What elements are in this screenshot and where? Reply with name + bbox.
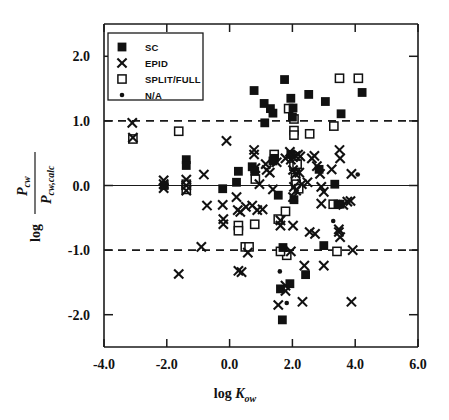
data-point-cross-x [319, 261, 328, 270]
y-tick-label: -1.0 [68, 243, 90, 258]
data-point-filled-square [286, 94, 295, 103]
data-point-cross-x [268, 185, 277, 194]
data-point-cross-x [288, 221, 297, 230]
data-point-cross-x [274, 300, 283, 309]
data-point-cross-x [202, 201, 211, 210]
data-point-filled-square [301, 270, 310, 279]
data-point-open-square [118, 75, 126, 83]
svg-text:log Kow: log Kow [214, 386, 257, 404]
data-point-cross-x [232, 193, 241, 202]
y-axis-tick-labels: 2.01.00.0-1.0-2.0 [68, 49, 90, 322]
data-point-filled-square [358, 88, 367, 97]
data-point-filled-square [232, 178, 241, 187]
data-point-small-dot [120, 93, 125, 98]
x-tick-label: -2.0 [156, 357, 178, 372]
data-point-cross-x [219, 220, 228, 229]
x-tick-label: -4.0 [93, 357, 115, 372]
data-point-open-square [251, 220, 259, 228]
data-point-open-square [330, 122, 338, 130]
data-point-small-dot [331, 219, 336, 224]
data-point-filled-square [319, 241, 328, 250]
data-point-open-square [354, 74, 362, 82]
data-point-filled-square [260, 118, 269, 127]
data-point-cross-x [218, 200, 227, 209]
data-point-filled-square [330, 180, 339, 189]
data-point-open-square [333, 247, 341, 255]
data-point-cross-x [327, 165, 336, 174]
data-point-open-square [234, 227, 242, 235]
data-point-filled-square [289, 104, 298, 113]
data-point-filled-square [278, 315, 287, 324]
data-point-small-dot [284, 301, 289, 306]
data-point-cross-x [317, 199, 326, 208]
data-point-cross-x [128, 118, 137, 127]
data-point-cross-x [174, 269, 183, 278]
series-epid [128, 118, 358, 309]
data-point-filled-square [250, 86, 259, 95]
y-tick-label: 0.0 [73, 179, 91, 194]
y-axis-title-log: log [28, 224, 43, 242]
data-point-open-square [335, 74, 343, 82]
data-point-cross-x [199, 170, 208, 179]
data-point-cross-x [310, 151, 319, 160]
data-point-cross-x [222, 136, 231, 145]
x-tick-label: 6.0 [409, 357, 427, 372]
data-point-filled-square [321, 97, 330, 106]
x-axis-title-log: log [214, 386, 232, 401]
data-point-cross-x [197, 242, 206, 251]
data-point-small-dot [355, 172, 360, 177]
y-axis-denominator: Pcw,calc [39, 165, 56, 204]
data-point-open-square [281, 207, 289, 215]
data-point-filled-square [288, 113, 297, 122]
data-point-cross-x [347, 169, 356, 178]
y-axis-title: log Pcw Pcw,calc [15, 152, 56, 242]
y-axis-numerator: Pcw [15, 176, 32, 196]
x-tick-label: 4.0 [346, 357, 364, 372]
legend-label: N/A [145, 90, 162, 101]
x-axis-tick-labels: -4.0-2.00.02.04.06.0 [93, 357, 427, 372]
scatter-chart: -4.0-2.00.02.04.06.0 2.01.00.0-1.0-2.0 l… [0, 0, 449, 420]
data-point-cross-x [298, 297, 307, 306]
legend: SCEPIDSPLIT/FULLN/A [108, 33, 203, 101]
x-tick-label: 2.0 [284, 357, 302, 372]
data-point-filled-square [337, 109, 346, 118]
data-point-filled-square [218, 184, 227, 193]
data-point-filled-square [280, 75, 289, 84]
y-tick-label: 1.0 [73, 114, 91, 129]
data-points [128, 74, 367, 324]
data-point-open-square [175, 127, 183, 135]
x-tick-label: 0.0 [221, 357, 239, 372]
x-axis-title: log Kow [214, 386, 257, 404]
y-tick-label: 2.0 [73, 49, 91, 64]
legend-label: SC [145, 42, 159, 53]
figure-container: -4.0-2.00.02.04.06.0 2.01.00.0-1.0-2.0 l… [0, 0, 449, 420]
data-point-filled-square [182, 161, 191, 170]
data-point-filled-square [118, 43, 127, 52]
data-point-filled-square [304, 90, 313, 99]
data-point-cross-x [265, 168, 274, 177]
legend-label: SPLIT/FULL [145, 74, 201, 85]
data-point-cross-x [347, 297, 356, 306]
x-axis-title-subscript: ow [245, 393, 257, 404]
data-point-open-square [306, 130, 314, 138]
data-point-small-dot [278, 269, 283, 274]
data-point-cross-x [336, 154, 345, 163]
data-point-open-square [290, 131, 298, 139]
data-point-filled-square [269, 109, 278, 118]
legend-label: EPID [145, 58, 168, 69]
data-point-cross-x [300, 261, 309, 270]
y-tick-label: -2.0 [68, 308, 90, 323]
data-point-filled-square [234, 167, 243, 176]
